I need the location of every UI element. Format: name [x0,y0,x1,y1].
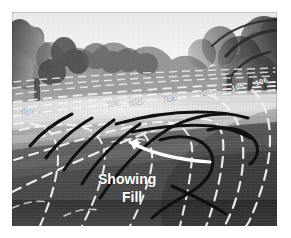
contour-label-101: 101 [107,98,121,109]
contour-label-103: 103 [163,93,177,104]
fill-line-1 [30,114,72,146]
proposed-fill-lines [30,112,258,218]
fill-line-9 [208,128,258,164]
contour-106 [246,90,270,226]
contour-label-100: 100 [21,106,35,117]
annotated-photograph: 100 101 102 103 104 105 106 [12,12,277,226]
contour-fg-1 [12,201,48,208]
contour-line-far-1 [14,68,275,82]
fill-line-3 [64,120,114,170]
contour-label-102: 102 [129,97,143,108]
callout-line-2: Fill [122,189,142,205]
figure-root: 100 101 102 103 104 105 106 [0,0,291,238]
contour-fg-2 [64,209,98,216]
annotation-overlay: 100 101 102 103 104 105 106 [12,12,277,226]
contour-line-mid-3 [14,90,275,116]
fill-line-8 [152,137,213,218]
callout-line-1: Showing [98,171,156,187]
contour-label-105: 105 [230,81,245,93]
